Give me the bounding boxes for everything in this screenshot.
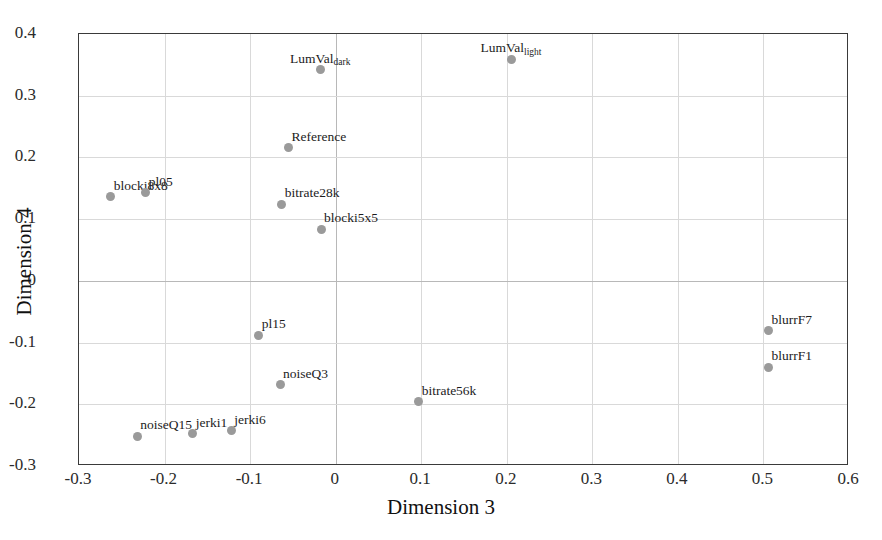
data-point[interactable] (316, 65, 325, 74)
data-point-label: pl05 (149, 175, 173, 189)
gridline-vertical (763, 34, 764, 464)
gridline-horizontal (79, 343, 847, 344)
gridline-vertical (250, 34, 251, 464)
data-point[interactable] (227, 426, 236, 435)
scatter-plot-figure: LumValdarkLumVallightReferenceblocki8x8p… (0, 0, 882, 540)
data-point-label: blurrF1 (772, 350, 813, 364)
gridline-vertical (336, 34, 337, 464)
gridline-vertical (165, 34, 166, 464)
x-tick-label: 0.4 (666, 469, 687, 489)
gridline-horizontal (79, 96, 847, 97)
x-tick-label: 0.6 (837, 469, 858, 489)
data-point-label: jerki6 (234, 413, 266, 427)
x-tick-label: 0.2 (495, 469, 516, 489)
x-tick-label: 0.3 (581, 469, 602, 489)
data-point-label: LumValdark (290, 52, 350, 66)
data-point-label: blocki5x5 (324, 211, 378, 225)
data-point[interactable] (764, 363, 773, 372)
y-axis-title: Dimension 4 (12, 62, 37, 462)
gridline-horizontal (79, 281, 847, 282)
gridline-horizontal (79, 157, 847, 158)
data-point-label-subscript: dark (334, 58, 351, 68)
gridline-vertical (678, 34, 679, 464)
data-point[interactable] (276, 380, 285, 389)
x-tick-label: 0.5 (752, 469, 773, 489)
data-point[interactable] (284, 143, 293, 152)
data-point-label: jerki1 (196, 416, 228, 430)
data-point-label: Reference (292, 130, 347, 144)
data-point[interactable] (764, 326, 773, 335)
gridline-horizontal (79, 219, 847, 220)
data-point-label: LumVallight (481, 42, 542, 56)
x-axis-title: Dimension 3 (0, 495, 882, 520)
data-point[interactable] (254, 331, 263, 340)
data-point[interactable] (277, 200, 286, 209)
data-point-label: bitrate56k (422, 384, 477, 398)
data-point[interactable] (106, 192, 115, 201)
plot-area: LumValdarkLumVallightReferenceblocki8x8p… (78, 33, 848, 465)
data-point-label-subscript: light (524, 47, 541, 57)
x-tick-label: -0.1 (236, 469, 263, 489)
data-point-label: pl15 (262, 317, 286, 331)
x-tick-label: 0.1 (410, 469, 431, 489)
y-tick-label: 0.4 (15, 23, 36, 43)
data-point[interactable] (507, 55, 516, 64)
data-point-label: blurrF7 (772, 313, 813, 327)
data-point-label: bitrate28k (285, 187, 340, 201)
x-tick-label: 0 (330, 469, 339, 489)
gridline-vertical (507, 34, 508, 464)
data-point[interactable] (133, 432, 142, 441)
data-point-label: noiseQ15 (140, 419, 192, 433)
data-point-label: noiseQ3 (283, 367, 328, 381)
gridline-horizontal (79, 404, 847, 405)
data-point[interactable] (188, 429, 197, 438)
data-point[interactable] (317, 225, 326, 234)
x-tick-label: -0.3 (65, 469, 92, 489)
data-point[interactable] (141, 188, 150, 197)
x-tick-label: -0.2 (150, 469, 177, 489)
gridline-vertical (592, 34, 593, 464)
